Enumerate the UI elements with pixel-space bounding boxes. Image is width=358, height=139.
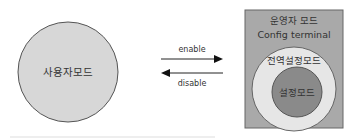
disable-arrowhead-icon — [161, 69, 170, 77]
enable-arrowhead-icon — [214, 55, 223, 63]
user-mode-label: 사용자모드 — [43, 66, 93, 78]
enable-label: enable — [178, 45, 205, 54]
disable-label: disable — [178, 79, 207, 88]
global-config-label: 전역설정모드 — [267, 55, 321, 66]
config-mode-label: 설정모드 — [279, 87, 315, 98]
privileged-mode-title: 운영자 모드 — [270, 15, 318, 26]
mode-diagram: 사용자모드 enable disable 운영자 모드 Config termi… — [0, 0, 358, 139]
privileged-mode-subtitle: Config terminal — [257, 29, 330, 40]
